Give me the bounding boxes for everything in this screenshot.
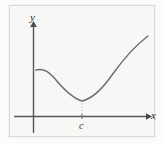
x-axis [14, 113, 152, 120]
y-axis-label: y [30, 12, 35, 23]
x-axis-label: x [151, 110, 156, 121]
figure-screenshot: y x c [0, 0, 164, 144]
function-curve [36, 36, 148, 101]
critical-point-label-c: c [79, 121, 83, 131]
